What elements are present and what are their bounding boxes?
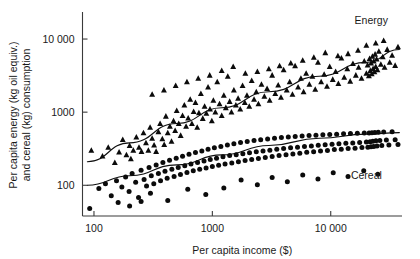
data-point-cereal bbox=[236, 159, 241, 164]
data-point-energy bbox=[225, 73, 231, 79]
data-point-energy bbox=[344, 66, 350, 72]
data-point-energy bbox=[261, 93, 267, 99]
data-point-energy bbox=[195, 75, 201, 81]
data-point-cereal bbox=[174, 156, 179, 161]
data-point-cereal bbox=[359, 145, 364, 150]
data-point-cereal bbox=[123, 174, 128, 179]
data-point-energy bbox=[161, 142, 167, 148]
data-point-energy bbox=[229, 109, 235, 115]
data-point-cereal bbox=[350, 140, 355, 145]
data-point-energy bbox=[123, 152, 129, 158]
data-point-energy bbox=[353, 72, 359, 78]
data-point-cereal bbox=[302, 144, 307, 149]
data-point-cereal bbox=[320, 132, 325, 137]
data-point-cereal bbox=[300, 173, 305, 178]
x-tick-label: 1000 bbox=[201, 222, 225, 234]
data-point-energy bbox=[389, 52, 395, 58]
data-point-energy bbox=[198, 90, 204, 96]
data-point-cereal bbox=[261, 148, 266, 153]
data-point-cereal bbox=[206, 147, 211, 152]
trend-lines bbox=[87, 49, 399, 185]
data-point-energy bbox=[387, 59, 393, 65]
data-point-energy bbox=[341, 74, 347, 80]
data-point-energy bbox=[183, 123, 189, 129]
data-point-energy bbox=[196, 110, 202, 116]
data-point-cereal bbox=[274, 147, 279, 152]
data-point-energy bbox=[171, 118, 177, 124]
data-point-energy bbox=[303, 70, 309, 76]
data-point-cereal bbox=[379, 143, 384, 148]
data-point-energy bbox=[200, 115, 206, 121]
data-point-cereal bbox=[311, 149, 316, 154]
data-point-energy bbox=[221, 92, 227, 98]
data-point-cereal bbox=[323, 142, 328, 147]
data-point-energy bbox=[191, 108, 197, 114]
data-point-cereal bbox=[239, 178, 244, 183]
data-point-cereal bbox=[162, 169, 167, 174]
data-point-cereal bbox=[149, 173, 154, 178]
data-point-cereal bbox=[277, 153, 282, 158]
data-point-energy bbox=[384, 46, 390, 52]
data-point-cereal bbox=[313, 133, 318, 138]
axes bbox=[83, 12, 403, 216]
data-point-energy bbox=[301, 89, 307, 95]
data-point-energy bbox=[159, 136, 165, 142]
data-point-cereal bbox=[154, 162, 159, 167]
annotation-energy: Energy bbox=[355, 14, 389, 26]
data-point-cereal bbox=[267, 148, 272, 153]
data-point-energy bbox=[214, 79, 220, 85]
data-point-cereal bbox=[346, 174, 351, 179]
data-point-cereal bbox=[178, 172, 183, 177]
data-point-cereal bbox=[180, 154, 185, 159]
data-point-cereal bbox=[216, 163, 221, 168]
data-point-cereal bbox=[339, 147, 344, 152]
data-point-cereal bbox=[133, 180, 138, 185]
data-point-energy bbox=[253, 89, 259, 95]
data-point-cereal bbox=[297, 151, 302, 156]
data-point-energy bbox=[300, 57, 306, 63]
data-point-cereal bbox=[172, 174, 177, 179]
data-point-energy bbox=[120, 137, 126, 143]
data-point-energy bbox=[187, 96, 193, 102]
x-axis-ticks bbox=[94, 211, 331, 216]
data-point-energy bbox=[116, 149, 122, 155]
data-point-cereal bbox=[127, 204, 132, 209]
data-point-cereal bbox=[240, 151, 245, 156]
data-point-energy bbox=[254, 68, 260, 74]
data-point-energy bbox=[275, 82, 281, 88]
data-point-cereal bbox=[167, 158, 172, 163]
data-point-energy bbox=[251, 96, 257, 102]
data-point-cereal bbox=[220, 154, 225, 159]
data-point-cereal bbox=[156, 171, 161, 176]
data-point-cereal bbox=[103, 181, 108, 186]
data-point-energy bbox=[180, 112, 186, 118]
series-energy-points bbox=[88, 38, 401, 165]
data-point-cereal bbox=[300, 134, 305, 139]
data-point-energy bbox=[151, 142, 157, 148]
annotation-cereal: Cereal bbox=[351, 169, 382, 181]
data-point-cereal bbox=[384, 138, 389, 143]
data-point-cereal bbox=[116, 200, 121, 205]
data-point-cereal bbox=[263, 155, 268, 160]
data-point-cereal bbox=[208, 157, 213, 162]
data-point-cereal bbox=[218, 144, 223, 149]
data-point-cereal bbox=[225, 143, 230, 148]
data-point-energy bbox=[147, 124, 153, 130]
data-point-cereal bbox=[130, 171, 135, 176]
data-point-energy bbox=[395, 44, 401, 50]
data-point-cereal bbox=[281, 146, 286, 151]
data-point-cereal bbox=[316, 143, 321, 148]
data-point-cereal bbox=[165, 198, 170, 203]
data-point-cereal bbox=[245, 139, 250, 144]
data-point-energy bbox=[230, 63, 236, 69]
data-point-cereal bbox=[357, 140, 362, 145]
data-point-energy bbox=[330, 76, 336, 82]
data-point-energy bbox=[161, 87, 167, 93]
data-point-energy bbox=[269, 72, 275, 78]
y-axis-title-line2: and cereal (kg) consumption bbox=[20, 49, 32, 182]
data-point-energy bbox=[392, 62, 398, 68]
data-point-energy bbox=[112, 159, 118, 165]
data-point-energy bbox=[205, 84, 211, 90]
data-point-cereal bbox=[377, 138, 382, 143]
data-point-cereal bbox=[147, 165, 152, 170]
